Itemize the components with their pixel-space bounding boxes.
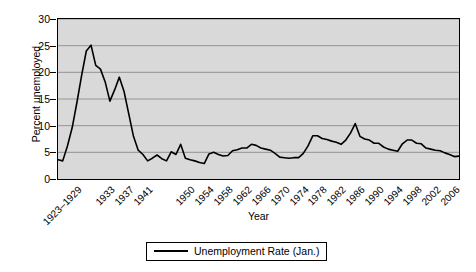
x-axis-title: Year bbox=[57, 210, 460, 222]
x-tick-label: 1958 bbox=[211, 184, 235, 208]
x-tick-label: 2002 bbox=[419, 184, 443, 208]
x-tick-label: 1974 bbox=[287, 184, 311, 208]
x-tick-label: 1982 bbox=[325, 184, 349, 208]
x-tick-label: 1962 bbox=[230, 184, 254, 208]
x-tick-label: 1966 bbox=[249, 184, 273, 208]
x-tick-label: 1990 bbox=[362, 184, 386, 208]
x-tick-label: 1937 bbox=[112, 184, 136, 208]
x-tick-label: 1978 bbox=[306, 184, 330, 208]
x-tick-label: 1950 bbox=[174, 184, 198, 208]
line-swatch-icon bbox=[154, 250, 188, 252]
unemployment-line-chart: Percent unemployed 051015202530 1923–192… bbox=[0, 0, 476, 272]
x-tick-label: 1970 bbox=[268, 184, 292, 208]
chart-legend: Unemployment Rate (Jan.) bbox=[146, 242, 327, 261]
x-tick-label: 1986 bbox=[343, 184, 367, 208]
x-tick-label: 1933 bbox=[93, 184, 117, 208]
x-tick-label: 2006 bbox=[438, 184, 462, 208]
x-tick-label: 1998 bbox=[400, 184, 424, 208]
x-tick-label: 1954 bbox=[193, 184, 217, 208]
x-tick-label: 1941 bbox=[131, 184, 155, 208]
legend-entry-label: Unemployment Rate (Jan.) bbox=[194, 245, 319, 257]
x-tick-label: 1994 bbox=[381, 184, 405, 208]
x-axis-tick-labels: 1923–19291933193719411950195419581962196… bbox=[0, 0, 476, 272]
